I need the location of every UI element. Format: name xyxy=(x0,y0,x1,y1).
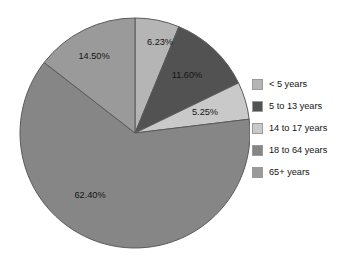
pie-slice-value-label: 62.40% xyxy=(74,190,105,200)
pie-chart-svg: 6.23%11.60%5.25%62.40%14.50% xyxy=(0,0,250,259)
pie-slice-value-label: 11.60% xyxy=(172,70,202,80)
pie-slice-value-label: 5.25% xyxy=(192,107,218,117)
legend-item[interactable]: 5 to 13 years xyxy=(252,95,352,117)
legend-item[interactable]: 18 to 64 years xyxy=(252,139,352,161)
pie-slice-group xyxy=(20,18,250,248)
legend-item-label: 5 to 13 years xyxy=(269,101,322,112)
legend-item-label: 14 to 17 years xyxy=(269,123,327,134)
pie-chart-plot-area: 6.23%11.60%5.25%62.40%14.50% xyxy=(0,0,250,259)
legend-item[interactable]: < 5 years xyxy=(252,73,352,95)
pie-slice-value-label: 14.50% xyxy=(78,51,109,61)
pie-chart-figure: 6.23%11.60%5.25%62.40%14.50% < 5 years5 … xyxy=(0,0,354,259)
legend-color-swatch xyxy=(252,167,263,178)
legend-item[interactable]: 65+ years xyxy=(252,161,352,183)
pie-slice-value-label: 6.23% xyxy=(147,37,173,47)
legend-color-swatch xyxy=(252,145,263,156)
legend-item[interactable]: 14 to 17 years xyxy=(252,117,352,139)
legend-color-swatch xyxy=(252,79,263,90)
legend-item-label: 65+ years xyxy=(269,167,310,178)
legend-color-swatch xyxy=(252,123,263,134)
legend-item-label: 18 to 64 years xyxy=(269,145,327,156)
chart-legend: < 5 years5 to 13 years14 to 17 years18 t… xyxy=(252,73,352,183)
legend-color-swatch xyxy=(252,101,263,112)
legend-item-label: < 5 years xyxy=(269,79,307,90)
